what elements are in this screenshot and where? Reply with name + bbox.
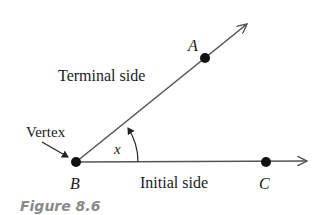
- point-a-label: A: [187, 37, 198, 54]
- point-c-dot: [261, 157, 271, 167]
- vertex-pointer-arrow: [42, 142, 68, 157]
- terminal-side-label: Terminal side: [58, 67, 145, 84]
- point-b-label: B: [70, 175, 80, 192]
- point-a-dot: [200, 53, 210, 63]
- angle-label: x: [113, 141, 121, 157]
- angle-diagram: A Terminal side Vertex x B Initial side …: [0, 0, 322, 215]
- vertex-label: Vertex: [26, 124, 66, 140]
- point-b-dot: [71, 157, 81, 167]
- terminal-side-ray: [76, 24, 247, 162]
- initial-side-label: Initial side: [140, 174, 208, 191]
- figure-caption: Figure 8.6: [20, 198, 101, 214]
- initial-side-ray: [76, 161, 307, 162]
- point-c-label: C: [259, 175, 270, 192]
- angle-arc: [128, 128, 138, 162]
